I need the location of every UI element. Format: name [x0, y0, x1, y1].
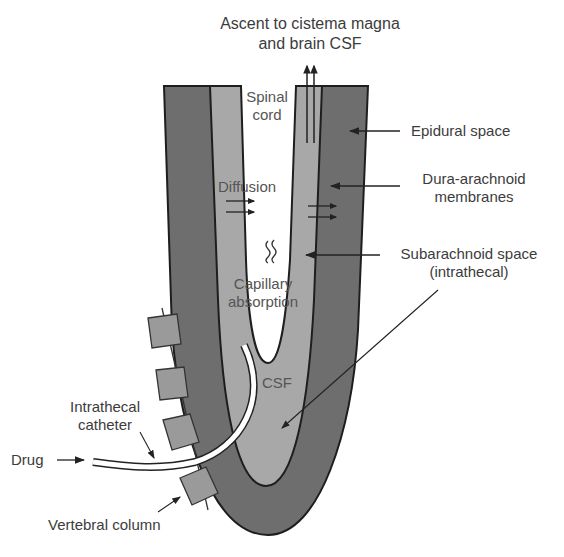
- catheter-leader: [140, 432, 154, 458]
- spinal-cord-label: Spinal cord: [232, 88, 302, 124]
- dura-arachnoid-label: Dura-arachnoid membranes: [404, 170, 544, 206]
- vertebral-column-label: Vertebral column: [48, 516, 161, 534]
- title-line-1: Ascent to cistema magna: [205, 14, 415, 34]
- title-line-2: and brain CSF: [205, 34, 415, 54]
- subarachnoid-label: Subarachnoid space (intrathecal): [384, 245, 554, 281]
- diffusion-label: Diffusion: [218, 178, 276, 196]
- title-ascent: Ascent to cistema magna and brain CSF: [205, 14, 415, 54]
- capillary-absorption-label: Capillary absorption: [218, 275, 308, 311]
- drug-label: Drug: [11, 451, 44, 469]
- epidural-space-label: Epidural space: [411, 122, 510, 140]
- csf-label: CSF: [262, 374, 292, 392]
- vertebral-leader: [158, 497, 180, 512]
- intrathecal-catheter-label: Intrathecal catheter: [55, 398, 155, 434]
